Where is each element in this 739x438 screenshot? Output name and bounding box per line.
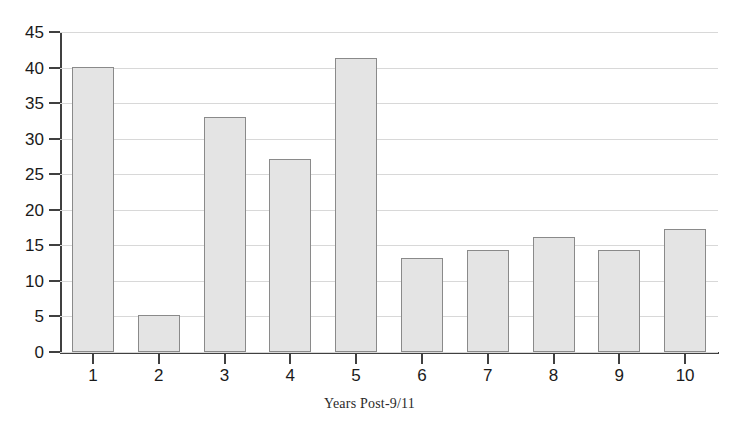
y-axis-tick — [49, 351, 60, 353]
gridline — [60, 139, 718, 140]
y-axis-tick — [49, 244, 60, 246]
x-axis-tick-label: 2 — [139, 366, 179, 386]
y-axis-tick-label: 20 — [0, 201, 44, 218]
bar — [335, 58, 377, 352]
x-axis-tick-label: 10 — [665, 366, 705, 386]
x-axis-tick — [158, 354, 160, 364]
bar — [72, 67, 114, 352]
y-axis-tick-label: 35 — [0, 95, 44, 112]
y-axis-tick-label: 40 — [0, 59, 44, 76]
y-axis-tick — [49, 102, 60, 104]
x-axis-tick-label: 4 — [270, 366, 310, 386]
gridline — [60, 32, 718, 33]
y-axis-tick-label: 15 — [0, 237, 44, 254]
x-axis-tick-label: 6 — [402, 366, 442, 386]
gridline — [60, 68, 718, 69]
y-axis-tick — [49, 209, 60, 211]
x-axis-tick — [224, 354, 226, 364]
gridline — [60, 352, 718, 353]
x-axis-tick — [92, 354, 94, 364]
bar — [269, 159, 311, 352]
y-axis-tick — [49, 67, 60, 69]
gridline — [60, 210, 718, 211]
y-axis-tick-label: 0 — [0, 344, 44, 361]
gridline — [60, 103, 718, 104]
x-axis-tick — [355, 354, 357, 364]
x-axis-tick-label: 3 — [205, 366, 245, 386]
x-axis-tick — [421, 354, 423, 364]
x-axis-tick — [487, 354, 489, 364]
bar — [598, 250, 640, 352]
bar — [533, 237, 575, 352]
bar — [138, 315, 180, 352]
x-axis-tick-label: 9 — [599, 366, 639, 386]
y-axis-tick-label: 5 — [0, 308, 44, 325]
gridline — [60, 174, 718, 175]
y-axis-tick-label: 45 — [0, 24, 44, 41]
x-axis-tick-label: 7 — [468, 366, 508, 386]
bar — [204, 117, 246, 352]
x-axis-tick — [684, 354, 686, 364]
bar-chart: 051015202530354045 12345678910 Years Pos… — [0, 0, 739, 438]
bar — [467, 250, 509, 352]
y-axis-tick — [49, 280, 60, 282]
y-axis-tick — [49, 138, 60, 140]
y-axis-tick-label: 25 — [0, 166, 44, 183]
x-axis-tick — [553, 354, 555, 364]
y-axis-tick — [49, 315, 60, 317]
x-axis-title: Years Post-9/11 — [0, 396, 739, 412]
x-axis-tick-label: 5 — [336, 366, 376, 386]
y-axis-tick — [49, 31, 60, 33]
x-axis-tick-label: 8 — [534, 366, 574, 386]
y-axis-tick-label: 30 — [0, 130, 44, 147]
bar — [401, 258, 443, 352]
y-axis-tick — [49, 173, 60, 175]
x-axis-tick — [618, 354, 620, 364]
gridline — [60, 245, 718, 246]
bar — [664, 229, 706, 352]
x-axis-tick — [289, 354, 291, 364]
plot-area — [60, 32, 718, 352]
y-axis-tick-label: 10 — [0, 272, 44, 289]
x-axis-tick-label: 1 — [73, 366, 113, 386]
